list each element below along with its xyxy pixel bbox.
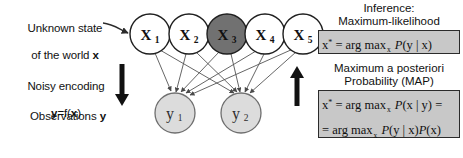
edge-x4-y1 [186,51,256,93]
node-x2-subscript: 2 [194,35,199,45]
node-x2[interactable]: X 2 [169,14,209,54]
map1-star: * [328,98,332,107]
ml-formula-box: x* = arg maxx P(y | x) [318,30,460,54]
node-x1-subscript: 1 [155,35,160,45]
down-arrow-icon [115,64,129,106]
edge-x2-y2 [196,52,237,92]
map-formula-line-2: = arg maxx P(y | x)P(x) [322,120,456,145]
inference-title: Inference: [318,2,460,15]
node-y2[interactable]: y 2 [221,93,261,133]
node-x5-subscript: 5 [308,35,313,45]
node-x3[interactable]: X 3 [207,14,247,54]
node-x4-subscript: 4 [270,35,275,45]
map2-prob-args: (y | x) [389,123,419,137]
map-title: Maximum a posteriori Probability (MAP) [318,62,460,88]
maximum-likelihood-subtitle: Maximum-likelihood [318,15,460,28]
map2-prob-args-2: (x) [426,123,441,137]
node-x4-label: X [256,27,267,43]
node-x3-subscript: 3 [232,35,237,45]
edge-x3-y1 [181,52,219,92]
figure-canvas: Unknown state of the world x Noisy encod… [0,0,463,158]
map1-eq: = arg max [335,98,386,112]
pointer-arrow-to-x1 [103,23,128,33]
ml-argmax-under: x [386,45,392,54]
edge-x4-y2 [245,54,264,92]
node-x3-label: X [218,27,229,43]
map2-prob-symbol: P [381,123,389,137]
map1-argmax-under: x [386,105,392,114]
node-y1[interactable]: y 1 [155,93,195,133]
map2-eq: = arg max [322,123,373,137]
node-x2-label: X [180,27,191,43]
node-y2-subscript: 2 [244,113,249,123]
ml-formula: x* = arg maxx P(y | x) [322,33,456,60]
map-formula-line-1: x* = arg maxx P(x | y) = [322,93,456,120]
edge-x5-y1 [190,49,293,95]
ml-eq: = arg max [335,38,386,52]
inference-panel: Inference: Maximum-likelihood x* = arg m… [318,2,460,138]
map2-argmax-under: x [373,131,379,140]
node-x5-label: X [294,27,305,43]
node-y1-label: y [166,105,174,123]
edge-x1-y1 [155,53,171,91]
map-formula-box: x* = arg maxx P(x | y) = = arg maxx P(y … [318,90,460,138]
node-x1-label: X [141,27,152,43]
node-y2-label: y [232,105,240,123]
map-title-line2: Probability (MAP) [344,75,433,87]
map1-prob-args: (x | y) = [402,98,442,112]
ml-star: * [328,38,332,47]
node-x5[interactable]: X 5 [283,14,323,54]
ml-prob-args: (y | x) [402,38,432,52]
edge-group [155,49,296,95]
map-title-line1: Maximum a posteriori [334,62,444,74]
up-arrow-icon [290,66,304,106]
node-x4[interactable]: X 4 [245,14,285,54]
node-x1[interactable]: X 1 [130,14,170,54]
node-y1-subscript: 1 [178,113,183,123]
